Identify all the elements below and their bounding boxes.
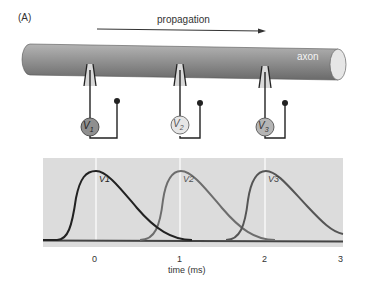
curve-label-v1: V1 (99, 174, 110, 184)
x-axis-label: time (ms) (168, 265, 206, 275)
propagation-label: propagation (157, 14, 210, 25)
voltmeter-2-label: V2 (173, 118, 184, 131)
x-tick-0: 0 (92, 254, 97, 264)
propagation-arrow-icon (97, 29, 266, 34)
action-potential-chart (43, 158, 343, 247)
axon-label: axon (297, 51, 319, 62)
x-tick-1: 1 (177, 254, 182, 264)
panel-label: (A) (18, 12, 31, 23)
x-tick-2: 2 (262, 254, 267, 264)
axon-diagram (0, 0, 369, 286)
voltmeter-1-label: V1 (83, 120, 94, 133)
curve-label-v3: V3 (268, 174, 279, 184)
x-tick-3: 3 (338, 254, 343, 264)
voltmeter-3-label: V3 (258, 120, 269, 133)
curve-label-v2: V2 (183, 174, 194, 184)
